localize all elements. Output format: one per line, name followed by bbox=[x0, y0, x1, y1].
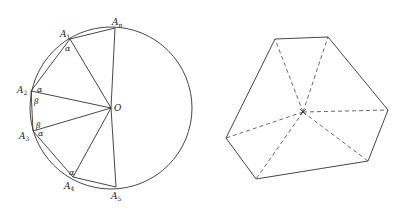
angle-labels: ααββαα bbox=[33, 44, 75, 177]
radius-line bbox=[111, 28, 115, 108]
dashed-spoke bbox=[275, 39, 303, 112]
hexagon-figure bbox=[226, 37, 388, 179]
radius-line bbox=[33, 108, 111, 131]
radius-line bbox=[70, 39, 111, 108]
vertex-label: An bbox=[111, 17, 123, 28]
hexagon-outline bbox=[226, 37, 388, 179]
angle-label: α bbox=[65, 44, 71, 53]
dashed-spoke bbox=[226, 112, 303, 138]
vertex-label: A4 bbox=[63, 181, 75, 192]
inscribed-polygon-edges bbox=[31, 28, 116, 187]
dashed-spoke bbox=[303, 37, 328, 112]
vertex-label: A5 bbox=[110, 191, 122, 202]
dashed-spoke bbox=[303, 110, 388, 112]
radius-line bbox=[111, 108, 116, 187]
dashed-spoke bbox=[303, 112, 368, 161]
center-label-o: O bbox=[114, 103, 122, 113]
dashed-spokes bbox=[226, 37, 388, 179]
angle-label: β bbox=[33, 97, 39, 106]
vertex-label: A1 bbox=[59, 29, 70, 40]
radii-lines bbox=[31, 28, 116, 187]
inscribed-polygon-figure: AnA1A2A3A4A5 ααββαα O bbox=[16, 17, 192, 202]
radius-line bbox=[73, 108, 111, 177]
dashed-spoke bbox=[256, 112, 303, 179]
radius-line bbox=[31, 91, 111, 108]
angle-label: α bbox=[38, 129, 44, 138]
vertex-label: A3 bbox=[18, 131, 30, 142]
angle-label: α bbox=[69, 168, 75, 177]
vertex-label: A2 bbox=[16, 85, 28, 96]
geometry-diagram: AnA1A2A3A4A5 ααββαα O bbox=[0, 0, 401, 220]
angle-label: α bbox=[37, 85, 43, 94]
